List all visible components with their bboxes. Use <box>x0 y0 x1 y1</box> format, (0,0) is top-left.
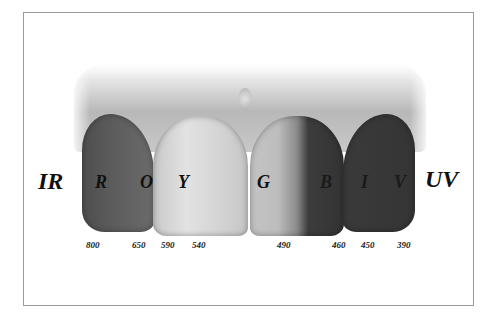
wavelength-490: 490 <box>277 240 291 250</box>
wavelength-450: 450 <box>361 240 375 250</box>
wavelength-540: 540 <box>192 240 206 250</box>
gum-top-fade <box>60 50 440 80</box>
label-b: B <box>320 172 332 193</box>
label-v: V <box>394 172 406 193</box>
label-uv: UV <box>425 166 458 193</box>
label-o: O <box>140 172 153 193</box>
wavelength-800: 800 <box>86 240 100 250</box>
wavelength-390: 390 <box>397 240 411 250</box>
label-r: R <box>95 172 107 193</box>
wavelength-460: 460 <box>332 240 346 250</box>
label-y: Y <box>178 172 189 193</box>
label-g: G <box>257 172 270 193</box>
wavelength-650: 650 <box>132 240 146 250</box>
wavelength-590: 590 <box>161 240 175 250</box>
label-ir: IR <box>38 168 63 195</box>
label-i: I <box>361 172 368 193</box>
frenum <box>238 88 252 110</box>
tooth-central-left <box>153 116 248 236</box>
